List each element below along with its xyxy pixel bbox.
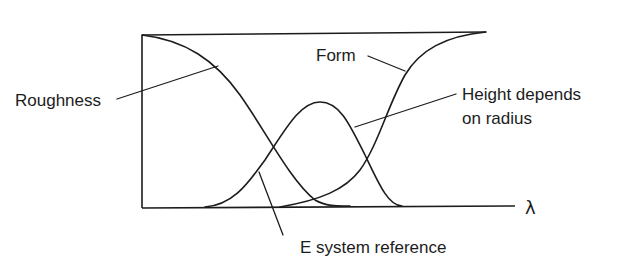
height-label-line2: on radius: [462, 109, 532, 128]
wavelength-axis-line: [142, 206, 515, 208]
e-system-reference-label: E system reference: [300, 238, 446, 257]
e-system-leader-line: [259, 172, 283, 235]
roughness-label: Roughness: [15, 91, 101, 110]
form-leader-line: [368, 56, 405, 71]
roughness-leader-line: [117, 66, 218, 99]
wavelength-lambda-label: λ: [525, 197, 536, 218]
height-leader-line: [355, 94, 456, 127]
height-label-line1: Height depends: [462, 85, 581, 104]
form-label: Form: [316, 46, 356, 65]
bell-curve: [205, 102, 402, 207]
top-line: [142, 32, 486, 35]
filter-diagram: Roughness Form Height depends on radius …: [0, 0, 617, 276]
form-curve: [280, 32, 486, 207]
